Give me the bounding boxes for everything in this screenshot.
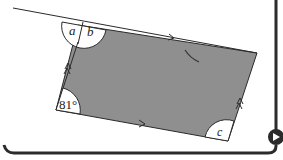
next-button[interactable] bbox=[268, 129, 283, 145]
angle-c-label: c bbox=[217, 125, 223, 139]
geometry-figure: a b 81° c bbox=[0, 0, 283, 160]
angle-a-label: a bbox=[69, 23, 76, 38]
angle-b-label: b bbox=[87, 24, 94, 39]
arrow-right-icon bbox=[268, 129, 283, 145]
angle-81-label: 81° bbox=[59, 97, 77, 112]
